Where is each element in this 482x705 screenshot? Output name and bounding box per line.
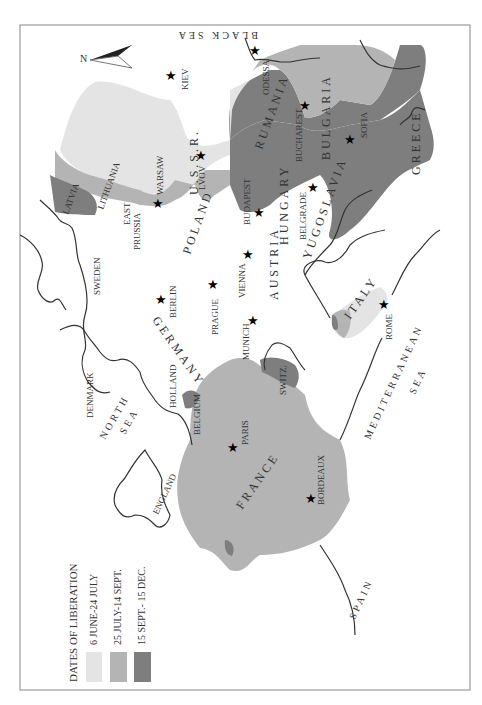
label-greece: GREECE <box>409 110 423 175</box>
city-label: PARIS <box>240 420 250 445</box>
city-label: WARSAW <box>155 155 165 195</box>
star-icon: ★ <box>344 132 356 147</box>
city-label: KIEV <box>180 68 190 90</box>
star-icon: ★ <box>249 43 261 58</box>
north-label: N <box>80 53 87 64</box>
city-label: BUDAPEST <box>242 178 252 225</box>
label-bulgaria: BULGARIA <box>319 74 333 160</box>
label-east-prussia-1: EAST <box>122 202 132 225</box>
city-label: BUCHAREST <box>294 108 304 162</box>
label-holland: HOLLAND <box>168 364 178 408</box>
label-hungary: HUNGARY <box>277 165 291 245</box>
star-icon: ★ <box>152 196 164 211</box>
legend-swatch-2 <box>110 652 127 682</box>
city-lvov: ★ LVOV <box>195 148 207 190</box>
label-belgium: BELGIUM <box>192 394 202 435</box>
city-label: BERLIN <box>168 285 178 318</box>
city-label: LVOV <box>197 165 207 190</box>
city-label: BORDEAUX <box>316 454 326 505</box>
city-label: VIENNA <box>237 263 247 298</box>
city-label: MUNICH <box>241 323 251 360</box>
label-sweden: SWEDEN <box>92 257 102 295</box>
star-icon: ★ <box>242 247 254 262</box>
star-icon: ★ <box>227 440 239 455</box>
star-icon: ★ <box>253 205 265 220</box>
star-icon: ★ <box>378 297 390 312</box>
city-label: PRAGUE <box>210 298 220 335</box>
star-icon: ★ <box>195 148 207 163</box>
star-icon: ★ <box>307 180 319 195</box>
label-black-sea: BLACK SEA <box>176 30 258 41</box>
legend-swatch-3 <box>134 652 151 682</box>
star-icon: ★ <box>207 277 219 292</box>
label-east-prussia-2: PRUSSIA <box>132 212 142 250</box>
city-label: BELGRADE <box>298 192 308 240</box>
legend-label-3: 15 SEPT.- 15 DEC. <box>136 567 147 645</box>
city-label: ODESSA <box>261 59 271 95</box>
label-switz: SWITZ. <box>278 365 288 395</box>
city-label: SOFIA <box>359 111 369 138</box>
legend-label-1: 6 JUNE-24 JULY <box>88 574 99 645</box>
star-icon: ★ <box>155 292 167 307</box>
legend-swatch-1 <box>86 652 102 682</box>
label-denmark: DENMARK <box>85 372 95 418</box>
legend-title: DATES OF LIBERATION <box>67 563 79 682</box>
liberation-map: N DATES OF LIBERATION 6 JUNE-24 JULY 25 … <box>0 0 482 705</box>
legend-label-2: 25 JULY-14 SEPT. <box>112 569 123 645</box>
star-icon: ★ <box>165 68 177 83</box>
city-label: ROME <box>384 313 394 340</box>
